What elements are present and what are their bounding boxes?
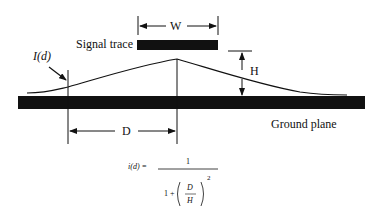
signal-trace	[137, 40, 218, 50]
id-pointer-arrow	[49, 67, 66, 80]
ground-plane	[18, 96, 365, 109]
signal-trace-label: Signal trace	[76, 38, 133, 50]
formula-frac-num: D	[187, 184, 193, 192]
height-label: H	[250, 65, 259, 77]
distance-label: D	[122, 125, 131, 137]
formula-exponent: 2	[207, 175, 211, 182]
ground-plane-label: Ground plane	[271, 118, 337, 130]
current-label: I(d)	[33, 50, 51, 62]
diagram: Signal trace W H I(d) D Ground plane i(d…	[0, 0, 378, 216]
width-label: W	[170, 20, 181, 32]
formula-numerator: 1	[186, 158, 190, 166]
formula-right-paren	[201, 182, 204, 206]
current-distribution-curve	[27, 59, 347, 95]
formula-lhs: i(d) =	[128, 163, 147, 171]
formula-left-paren	[178, 182, 181, 206]
formula-denominator-prefix: 1 +	[164, 190, 175, 198]
formula-frac-den: H	[187, 197, 193, 205]
